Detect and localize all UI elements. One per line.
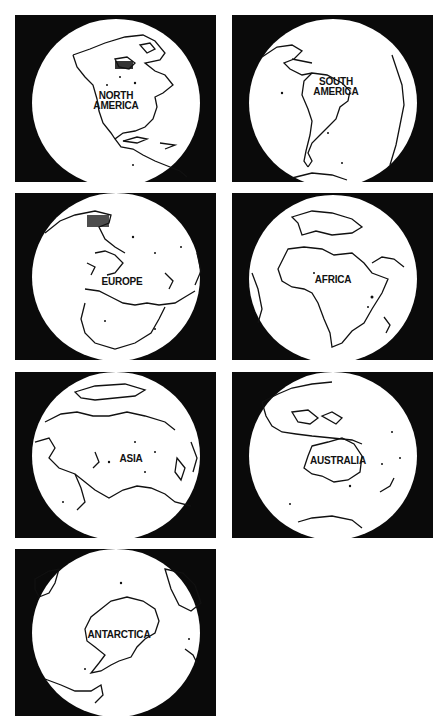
label-europe: EUROPE	[97, 277, 147, 287]
label-north-america: NORTH AMERICA	[91, 91, 141, 111]
globe-south-america	[232, 15, 433, 182]
label-africa: AFRICA	[308, 275, 358, 285]
globe-panel-africa: AFRICA	[232, 193, 433, 360]
label-australia: AUSTRALIA	[308, 456, 368, 466]
label-asia: ASIA	[111, 454, 151, 464]
globe-panel-asia: ASIA	[15, 372, 216, 538]
globe-panel-north-america: NORTH AMERICA	[15, 15, 216, 182]
globe-panel-australia: AUSTRALIA	[232, 372, 433, 538]
globe-panel-antarctica: ANTARCTICA	[15, 549, 216, 716]
globe-panel-europe: EUROPE	[15, 193, 216, 360]
label-south-america: SOUTH AMERICA	[296, 77, 376, 97]
globe-panel-south-america: SOUTH AMERICA	[232, 15, 433, 182]
label-antarctica: ANTARCTICA	[87, 630, 151, 640]
